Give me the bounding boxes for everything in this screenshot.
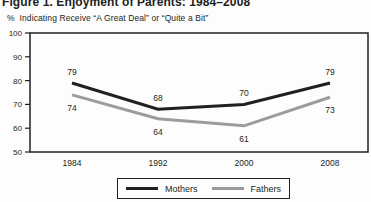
y-axis-tick-label: 50 — [13, 148, 22, 157]
data-label-fathers: 73 — [325, 105, 335, 115]
data-label-fathers: 61 — [239, 134, 249, 144]
legend-item-fathers: Fathers — [212, 184, 282, 194]
data-label-mothers: 79 — [67, 67, 77, 77]
mothers-line-swatch — [126, 187, 158, 190]
data-label-fathers: 74 — [67, 103, 77, 113]
y-axis-tick-label: 100 — [9, 29, 23, 38]
data-label-mothers: 68 — [153, 93, 163, 103]
fathers-line — [72, 95, 330, 126]
x-axis-label: 2000 — [235, 158, 254, 168]
legend-label-mothers: Mothers — [165, 184, 198, 194]
legend-item-mothers: Mothers — [126, 184, 198, 194]
legend-label-fathers: Fathers — [251, 184, 282, 194]
figure-panel: Figure 1. Enjoyment of Parents: 1984–200… — [0, 0, 371, 202]
x-axis-label: 2008 — [321, 158, 340, 168]
y-axis-tick-label: 60 — [13, 124, 22, 133]
legend-box: Mothers Fathers — [117, 178, 290, 199]
data-label-mothers: 79 — [325, 67, 335, 77]
line-chart: 1009080706050198419922000200879687079746… — [0, 0, 371, 202]
fathers-line-swatch — [212, 187, 244, 190]
plot-border — [30, 33, 368, 152]
data-label-fathers: 64 — [153, 127, 163, 137]
y-axis-tick-label: 90 — [13, 53, 22, 62]
x-axis-label: 1984 — [63, 158, 82, 168]
y-axis-tick-label: 70 — [13, 100, 22, 109]
y-axis-tick-label: 80 — [13, 77, 22, 86]
data-label-mothers: 70 — [239, 88, 249, 98]
x-axis-label: 1992 — [149, 158, 168, 168]
